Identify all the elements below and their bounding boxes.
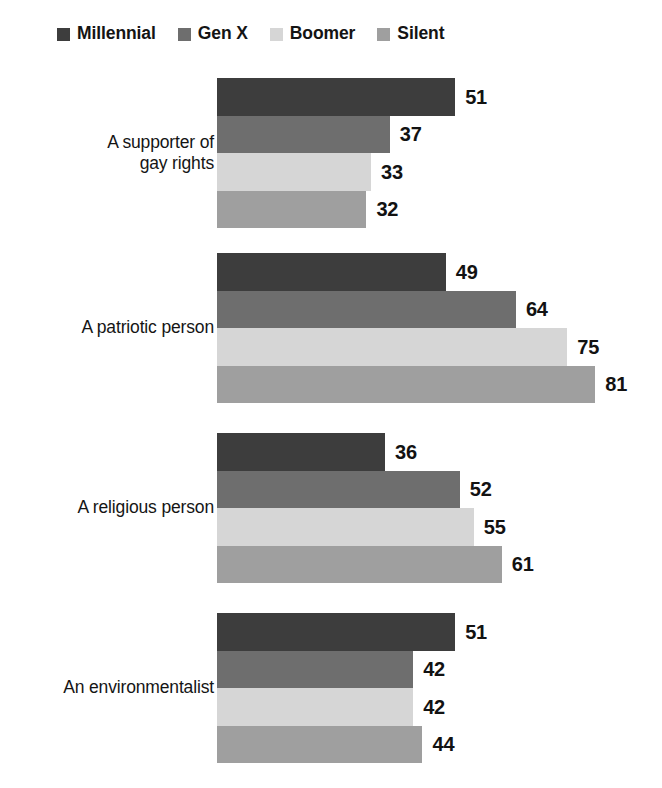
- bar-gen-x[interactable]: [217, 471, 460, 509]
- bar-row: 64: [217, 291, 662, 329]
- bars-container: 49647581: [217, 253, 662, 403]
- category-label-line: gay rights: [0, 153, 214, 174]
- bar-value-label: 55: [484, 515, 506, 538]
- bar-value-label: 51: [465, 85, 487, 108]
- bar-row: 44: [217, 726, 662, 764]
- bars-container: 51373332: [217, 78, 662, 228]
- bar-millennial[interactable]: [217, 253, 446, 291]
- bar-group: A supporter ofgay rights51373332: [0, 78, 662, 228]
- bar-value-label: 44: [432, 733, 454, 756]
- category-label-line: A patriotic person: [0, 317, 214, 338]
- bar-row: 33: [217, 153, 662, 191]
- category-label-line: An environmentalist: [0, 677, 214, 698]
- bar-value-label: 49: [456, 260, 478, 283]
- bar-row: 32: [217, 191, 662, 229]
- category-label-line: A supporter of: [0, 132, 214, 153]
- category-axis-label: A patriotic person: [0, 317, 214, 338]
- bar-row: 81: [217, 366, 662, 404]
- bar-value-label: 51: [465, 620, 487, 643]
- bar-row: 52: [217, 471, 662, 509]
- bar-gen-x[interactable]: [217, 116, 390, 154]
- bar-millennial[interactable]: [217, 433, 385, 471]
- bar-row: 42: [217, 651, 662, 689]
- bar-silent[interactable]: [217, 366, 595, 404]
- category-axis-label: An environmentalist: [0, 677, 214, 698]
- bar-row: 61: [217, 546, 662, 584]
- bar-value-label: 64: [526, 298, 548, 321]
- bar-group: A religious person36525561: [0, 433, 662, 583]
- bar-value-label: 32: [376, 198, 398, 221]
- bar-row: 51: [217, 613, 662, 651]
- bar-gen-x[interactable]: [217, 651, 413, 689]
- bars-container: 36525561: [217, 433, 662, 583]
- bar-millennial[interactable]: [217, 78, 455, 116]
- bar-chart-plot-area: A supporter ofgay rights51373332A patrio…: [0, 0, 662, 788]
- bar-row: 49: [217, 253, 662, 291]
- category-label-line: A religious person: [0, 497, 214, 518]
- bar-row: 37: [217, 116, 662, 154]
- bar-boomer[interactable]: [217, 328, 567, 366]
- category-axis-label: A religious person: [0, 497, 214, 518]
- bar-group: An environmentalist51424244: [0, 613, 662, 763]
- bar-boomer[interactable]: [217, 508, 474, 546]
- bar-value-label: 75: [577, 335, 599, 358]
- bar-boomer[interactable]: [217, 153, 371, 191]
- bar-millennial[interactable]: [217, 613, 455, 651]
- bar-row: 75: [217, 328, 662, 366]
- bar-value-label: 33: [381, 160, 403, 183]
- bar-value-label: 42: [423, 695, 445, 718]
- bars-container: 51424244: [217, 613, 662, 763]
- bar-row: 36: [217, 433, 662, 471]
- bar-row: 55: [217, 508, 662, 546]
- bar-boomer[interactable]: [217, 688, 413, 726]
- bar-value-label: 42: [423, 658, 445, 681]
- bar-value-label: 37: [400, 123, 422, 146]
- bar-silent[interactable]: [217, 726, 422, 764]
- bar-silent[interactable]: [217, 546, 502, 584]
- bar-value-label: 36: [395, 440, 417, 463]
- bar-group: A patriotic person49647581: [0, 253, 662, 403]
- category-axis-label: A supporter ofgay rights: [0, 132, 214, 175]
- bar-silent[interactable]: [217, 191, 366, 229]
- bar-row: 42: [217, 688, 662, 726]
- bar-value-label: 81: [605, 373, 627, 396]
- bar-value-label: 52: [470, 478, 492, 501]
- bar-row: 51: [217, 78, 662, 116]
- bar-gen-x[interactable]: [217, 291, 516, 329]
- bar-value-label: 61: [512, 553, 534, 576]
